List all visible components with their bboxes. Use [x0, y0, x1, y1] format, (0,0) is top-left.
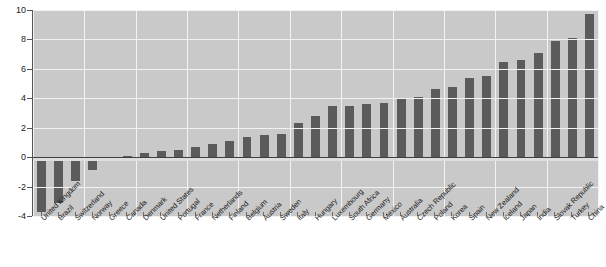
gridline-x [495, 10, 496, 216]
gridline-x [290, 10, 291, 216]
gridline-y [33, 128, 598, 129]
bar [499, 62, 508, 158]
gridline-x [341, 10, 342, 216]
bar [431, 89, 440, 157]
bar [243, 137, 252, 158]
gridline-x [598, 10, 599, 216]
bar [465, 78, 474, 157]
gridline-y [33, 39, 598, 40]
y-axis: 1086420-2-4 [0, 10, 32, 216]
gridline-y [33, 10, 598, 11]
bar [328, 106, 337, 158]
bar [208, 144, 217, 157]
y-tick-label: 8 [21, 34, 26, 44]
gridline-x [547, 10, 548, 216]
y-tick-label: -4 [18, 211, 26, 221]
bar [311, 116, 320, 157]
gridline-x [84, 10, 85, 216]
bar [345, 106, 354, 158]
bar [585, 14, 594, 157]
y-tick-label: -2 [18, 182, 26, 192]
gridline-x [393, 10, 394, 216]
bar [225, 141, 234, 157]
zero-line [33, 157, 598, 158]
gridline-y [33, 69, 598, 70]
bar [362, 104, 371, 157]
gridline-x [238, 10, 239, 216]
gridline-x [136, 10, 137, 216]
bar [517, 60, 526, 157]
bar [482, 76, 491, 157]
y-tick-label: 0 [21, 152, 26, 162]
y-tick-label: 4 [21, 93, 26, 103]
gridline-y [33, 98, 598, 99]
y-tick-label: 2 [21, 123, 26, 133]
bar [37, 157, 46, 211]
bar [260, 135, 269, 157]
bar [191, 147, 200, 157]
chart-title [0, 0, 601, 6]
bar [174, 150, 183, 157]
x-axis-labels: United KingdomBrazilSwitzerlandNorwayGre… [32, 216, 598, 267]
bar [380, 103, 389, 157]
y-tick-label: 10 [16, 5, 26, 15]
gridline-x [33, 10, 34, 216]
y-tick-label: 6 [21, 64, 26, 74]
bar [277, 134, 286, 158]
bar [448, 87, 457, 158]
